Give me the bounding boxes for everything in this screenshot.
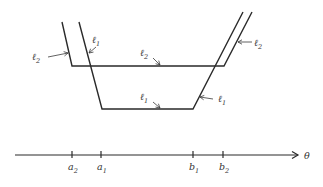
label-l1: ℓ1: [200, 93, 226, 107]
tick-label-a2: a2: [68, 161, 78, 175]
tick-label-b2: b2: [219, 161, 229, 175]
label-l1: ℓ1: [89, 34, 100, 53]
tick-label-b1: b1: [189, 161, 199, 175]
tick-label-a1: a1: [97, 161, 107, 175]
pointer-arrow-icon: [48, 53, 68, 57]
interval-diagram: ℓ2ℓ1ℓ2ℓ1ℓ2ℓ1 θa2a1b1b2: [0, 0, 323, 187]
curve-l2: [62, 12, 252, 66]
label-l2: ℓ2: [32, 51, 68, 65]
label-text-l2: ℓ2: [32, 51, 40, 65]
curves-group: [62, 12, 252, 109]
label-text-l1: ℓ1: [218, 93, 226, 107]
theta-axis: θa2a1b1b2: [15, 150, 310, 175]
label-text-l2: ℓ2: [140, 47, 148, 61]
label-text-l1: ℓ1: [140, 91, 148, 105]
axis-label-theta: θ: [304, 150, 310, 161]
label-l1: ℓ1: [140, 91, 160, 108]
label-l2: ℓ2: [140, 47, 160, 65]
label-l2: ℓ2: [238, 37, 262, 51]
label-text-l2: ℓ2: [254, 37, 262, 51]
label-text-l1: ℓ1: [92, 34, 100, 48]
curve-labels-group: ℓ2ℓ1ℓ2ℓ1ℓ2ℓ1: [32, 34, 262, 108]
